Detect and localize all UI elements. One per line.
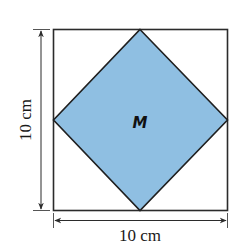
vertical-dimension-label: 10 cm xyxy=(16,99,35,141)
region-label-m: M xyxy=(133,114,148,132)
horizontal-dimension-label: 10 cm xyxy=(119,226,161,245)
diagram-canvas: M 10 cm 10 cm xyxy=(0,0,247,252)
